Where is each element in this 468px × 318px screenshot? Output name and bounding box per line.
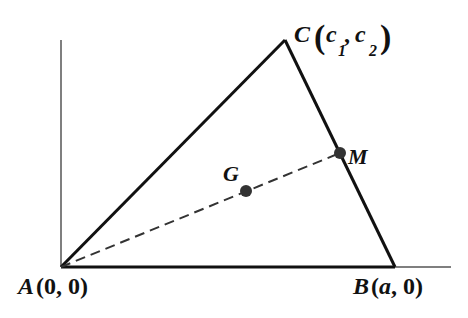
point-m bbox=[334, 147, 346, 159]
label-g: G bbox=[223, 161, 239, 186]
label-b: B(a, 0) bbox=[352, 273, 423, 299]
svg-text:,: , bbox=[344, 21, 350, 47]
svg-text:(: ( bbox=[314, 18, 325, 56]
point-g bbox=[240, 185, 252, 197]
label-a: A(0, 0) bbox=[16, 273, 88, 299]
svg-text:): ) bbox=[380, 18, 391, 56]
median-am bbox=[61, 153, 340, 267]
svg-text:c: c bbox=[355, 21, 366, 47]
svg-text:2: 2 bbox=[368, 42, 377, 59]
label-m: M bbox=[347, 144, 369, 169]
svg-text:C: C bbox=[294, 21, 311, 47]
side-ac bbox=[61, 40, 285, 267]
triangle-diagram: G M A(0, 0) B(a, 0) C ( c 1 , c 2 ) bbox=[0, 0, 468, 318]
label-c: C ( c 1 , c 2 ) bbox=[294, 18, 391, 59]
svg-text:c: c bbox=[326, 21, 337, 47]
